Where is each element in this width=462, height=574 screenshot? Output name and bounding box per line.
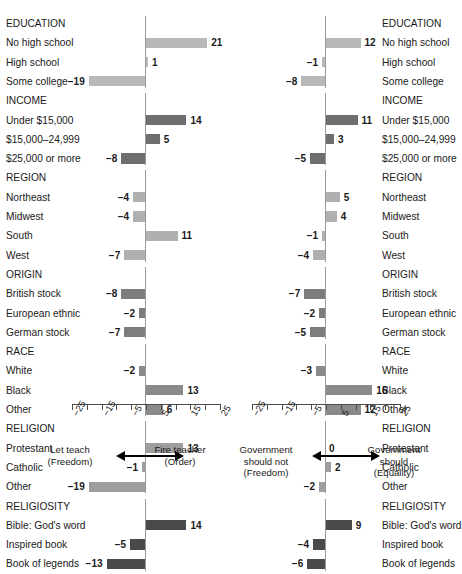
bar-value-label: −5 (115, 535, 126, 554)
zero-reference-line (325, 421, 326, 493)
table-row: White−2 (0, 361, 226, 380)
table-row: Midwest4 (226, 207, 451, 226)
bar (124, 250, 145, 260)
table-row: German stock−7 (0, 323, 226, 342)
zero-reference-line (325, 93, 326, 165)
bar (145, 115, 186, 125)
zero-reference-line (325, 170, 326, 262)
anchor-line: (Equality) (346, 467, 442, 479)
arrow-head-left (312, 451, 321, 461)
bar-value-label: −8 (286, 72, 297, 91)
group-header-row: ORIGIN (226, 265, 451, 284)
group-label: REGION (382, 168, 422, 187)
anchor-line: Government (222, 444, 310, 456)
group-label: ORIGIN (6, 265, 42, 284)
category-label: Bible: God's word (382, 516, 462, 535)
bar-value-label: 2 (335, 458, 341, 477)
category-label: Book of legends (6, 554, 79, 573)
group-header-row: RELIGIOSITY (0, 497, 226, 516)
table-row: Other−2 (226, 477, 451, 496)
bar-value-label: 11 (182, 226, 193, 245)
group-header-row: ORIGIN (0, 265, 226, 284)
table-row: Inspired book−5 (0, 535, 226, 554)
category-label: High school (382, 53, 435, 72)
bar-value-label: −4 (298, 246, 309, 265)
bar-value-label: −6 (292, 554, 303, 573)
bar-value-label: 13 (187, 381, 198, 400)
category-label: Midwest (6, 207, 43, 226)
axis-tick (146, 404, 147, 410)
bar-value-label: −7 (289, 284, 300, 303)
bar (325, 211, 337, 221)
bar-value-label: −19 (68, 477, 85, 496)
category-label: $15,000–24,999 (6, 130, 80, 149)
group-label: RELIGIOSITY (6, 497, 70, 516)
category-label: Other (6, 400, 31, 419)
bar (325, 520, 352, 530)
table-row: Other−19 (0, 477, 226, 496)
category-label: Other (6, 477, 31, 496)
table-row: Under $15,00014 (0, 111, 226, 130)
zero-reference-line (325, 499, 326, 571)
bar (145, 385, 183, 395)
bar-value-label: −1 (307, 226, 318, 245)
group-header-row: RACE (0, 342, 226, 361)
bar (313, 250, 325, 260)
category-label: Black (6, 381, 31, 400)
arrow-freedom-equality (321, 455, 371, 457)
category-label: British stock (382, 284, 437, 303)
table-row: West−7 (0, 246, 226, 265)
table-row: Midwest−4 (0, 207, 226, 226)
table-row: Some college−19 (0, 72, 226, 91)
table-row: British stock−8 (0, 284, 226, 303)
category-label: European ethnic (382, 304, 456, 323)
bar-value-label: 4 (341, 207, 347, 226)
category-label: High school (6, 53, 59, 72)
bar-value-label: −5 (295, 323, 306, 342)
zero-reference-line (145, 93, 146, 165)
table-row: Book of legends−13 (0, 554, 226, 573)
table-row: European ethnic−2 (226, 304, 451, 323)
bar-value-label: −19 (68, 72, 85, 91)
category-label: Northeast (382, 188, 426, 207)
zero-reference-line (145, 16, 146, 88)
cut-off-title (238, 0, 368, 5)
anchor-line: should (346, 456, 442, 468)
bar (133, 192, 145, 202)
bar-value-label: 11 (362, 111, 373, 130)
category-label: No high school (382, 33, 449, 52)
bar-value-label: −2 (124, 361, 135, 380)
table-row: Northeast5 (226, 188, 451, 207)
bar (310, 327, 325, 337)
group-header-row: INCOME (0, 91, 226, 110)
bar (145, 38, 207, 48)
bar (316, 366, 325, 376)
bar (325, 38, 361, 48)
anchor-line: (Freedom) (222, 467, 310, 479)
table-row: Black13 (0, 381, 226, 400)
table-row: $25,000 or more−8 (0, 149, 226, 168)
bar (301, 76, 325, 86)
bar-value-label: −8 (106, 284, 117, 303)
table-row: Inspired book−4 (226, 535, 451, 554)
bar (89, 482, 145, 492)
bar (325, 192, 340, 202)
group-label: EDUCATION (6, 14, 65, 33)
category-label: German stock (6, 323, 69, 342)
group-label: ORIGIN (382, 265, 418, 284)
bar-value-label: −5 (295, 149, 306, 168)
category-label: $25,000 or more (6, 149, 81, 168)
anchor-line: Let teach (26, 444, 114, 456)
group-header-row: INCOME (226, 91, 451, 110)
table-row: West−4 (226, 246, 451, 265)
category-label: Other (382, 477, 407, 496)
category-label: Book of legends (382, 554, 455, 573)
bar (307, 559, 325, 569)
category-label: White (6, 361, 32, 380)
bar (313, 539, 325, 549)
bar (145, 231, 178, 241)
category-label: West (382, 246, 405, 265)
table-row: High school1 (0, 53, 226, 72)
arrow-head-right (175, 451, 184, 461)
bar-value-label: 5 (164, 130, 170, 149)
